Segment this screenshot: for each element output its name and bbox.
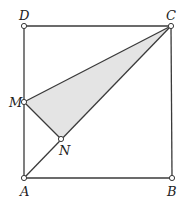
label-d: D — [18, 8, 30, 23]
label-c: C — [166, 8, 176, 23]
point-n — [58, 136, 63, 141]
square-diagram: D C M N A B — [0, 0, 184, 206]
label-b: B — [166, 184, 177, 199]
point-d — [21, 23, 26, 28]
shaded-triangle-cmn — [24, 26, 171, 139]
label-a: A — [19, 184, 29, 199]
point-b — [169, 175, 174, 180]
segment-bc — [171, 26, 172, 178]
point-c — [168, 23, 173, 28]
point-a — [21, 175, 26, 180]
label-m: M — [8, 95, 23, 110]
label-n: N — [58, 143, 71, 158]
